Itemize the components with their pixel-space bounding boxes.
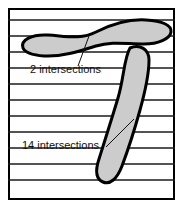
lower-annotation-label: 14 intersections	[22, 139, 100, 151]
intersection-diagram: 2 intersections 14 intersections	[0, 0, 183, 207]
upper-annotation-label: 2 intersections	[30, 63, 101, 75]
figure-container: 2 intersections 14 intersections	[0, 0, 183, 207]
